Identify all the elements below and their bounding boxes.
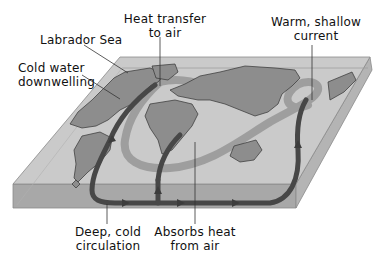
label-absorbs-heat: Absorbs heat from air [150, 225, 240, 253]
label-warm-shallow-line1: Warm, shallow [266, 15, 366, 29]
label-heat-transfer: Heat transfer to air [120, 12, 210, 40]
label-heat-transfer-line2: to air [120, 26, 210, 40]
label-labrador-sea: Labrador Sea [40, 33, 120, 47]
label-cold-water-downwelling: Cold water downwelling [18, 61, 95, 89]
label-warm-shallow-line2: current [266, 29, 366, 43]
label-deep-cold-line1: Deep, cold [68, 225, 148, 239]
label-cold-water-line2: downwelling [18, 75, 95, 89]
label-cold-water-line1: Cold water [18, 61, 95, 75]
label-heat-transfer-line1: Heat transfer [120, 12, 210, 26]
label-absorbs-heat-line2: from air [150, 239, 240, 253]
label-absorbs-heat-line1: Absorbs heat [150, 225, 240, 239]
label-deep-cold-circulation: Deep, cold circulation [68, 225, 148, 253]
label-warm-shallow-current: Warm, shallow current [266, 15, 366, 43]
label-labrador-sea-line1: Labrador Sea [40, 33, 120, 47]
label-deep-cold-line2: circulation [68, 239, 148, 253]
